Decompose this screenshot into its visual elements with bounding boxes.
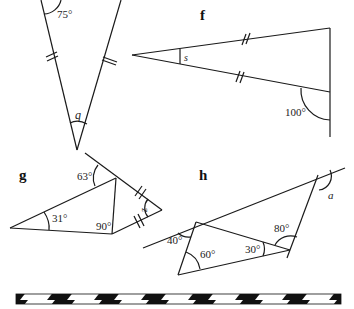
- figure-h-angle-30: 30°: [245, 243, 260, 255]
- figure-g-extended-side: [85, 153, 162, 210]
- figure-h-angle-40: 40°: [167, 234, 182, 246]
- figure-h: h 40° 60° 30° 80° a: [143, 167, 345, 275]
- figure-g-unknown-z: z: [138, 208, 149, 213]
- figure-g-angle-arc-z: [145, 199, 148, 217]
- figure-e-angle-75: 75°: [57, 8, 72, 20]
- figure-g-angle-31: 31°: [52, 212, 67, 224]
- figure-h-unknown-a: a: [328, 189, 334, 201]
- figure-f-angle-100: 100°: [285, 106, 306, 118]
- figure-h-angle-arc-a: [319, 170, 331, 190]
- figure-h-label: h: [199, 167, 208, 183]
- figure-g: g 63° 31° 90° z: [10, 153, 162, 234]
- figure-e-right-side: [77, 0, 121, 150]
- figure-h-angle-arc-30: [263, 242, 265, 256]
- geometry-exercise-diagram: 75° q f s 100° g 63° 31° 90°: [0, 0, 354, 309]
- equal-mark-icon: [236, 71, 240, 82]
- figure-h-right-side: [287, 175, 318, 258]
- figure-h-bottom-side: [178, 250, 290, 275]
- figure-g-middle-side: [112, 178, 116, 234]
- figure-h-angle-80: 80°: [274, 222, 289, 234]
- equal-mark-icon: [47, 56, 58, 61]
- figure-f-unknown-s: s: [184, 52, 188, 63]
- figure-g-label: g: [19, 167, 27, 183]
- equal-mark-icon: [134, 216, 140, 228]
- figure-g-angle-90: 90°: [96, 220, 111, 232]
- figure-g-angle-63: 63°: [77, 170, 92, 182]
- figure-e-unknown-q: q: [75, 108, 81, 122]
- figure-e-left-side: [41, 0, 77, 150]
- figure-e: 75° q: [41, 0, 121, 150]
- hazard-stripe-divider: [16, 294, 341, 304]
- equal-mark-icon: [240, 72, 244, 83]
- striped-bar: [16, 294, 341, 304]
- figure-h-angle-arc-60: [186, 252, 200, 269]
- figure-h-angle-60: 60°: [200, 248, 215, 260]
- equal-mark-icon: [138, 214, 144, 226]
- figure-f-bottom-side: [132, 55, 330, 92]
- figure-f-top-side: [132, 28, 330, 55]
- equal-mark-icon: [46, 52, 57, 57]
- figure-f: f s 100°: [132, 7, 330, 137]
- figure-g-angle-arc-63: [93, 165, 98, 186]
- figure-g-angle-arc-31: [44, 212, 49, 230]
- figure-f-label: f: [200, 7, 206, 23]
